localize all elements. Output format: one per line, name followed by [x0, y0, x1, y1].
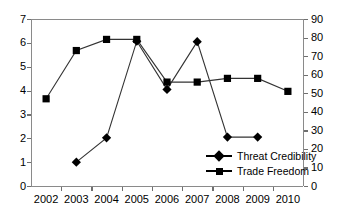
square-marker-icon: [206, 165, 232, 176]
data-point-diamond[interactable]: [162, 85, 171, 94]
data-point-square[interactable]: [224, 75, 231, 82]
data-point-square[interactable]: [43, 95, 50, 102]
series-line-threat-credibility: [76, 41, 257, 162]
data-point-diamond[interactable]: [253, 132, 262, 141]
data-point-square[interactable]: [254, 75, 261, 82]
data-point-square[interactable]: [163, 78, 170, 85]
chart-container: 0123456701020304050607080902002200320042…: [0, 0, 355, 215]
series-plot-layer: [0, 0, 355, 215]
data-point-diamond[interactable]: [193, 37, 202, 46]
data-point-square[interactable]: [284, 88, 291, 95]
legend-label-trade-freedom: Trade Freedom: [237, 165, 309, 177]
legend-item-threat-credibility[interactable]: Threat Credibility: [206, 148, 316, 163]
legend-label-threat-credibility: Threat Credibility: [237, 150, 316, 162]
data-point-diamond[interactable]: [223, 132, 232, 141]
chart-legend: Threat Credibility Trade Freedom: [206, 148, 316, 178]
legend-item-trade-freedom[interactable]: Trade Freedom: [206, 163, 316, 178]
data-point-square[interactable]: [73, 47, 80, 54]
data-point-square[interactable]: [103, 36, 110, 43]
data-point-square[interactable]: [133, 36, 140, 43]
diamond-marker-icon: [206, 150, 232, 161]
data-point-square[interactable]: [194, 78, 201, 85]
